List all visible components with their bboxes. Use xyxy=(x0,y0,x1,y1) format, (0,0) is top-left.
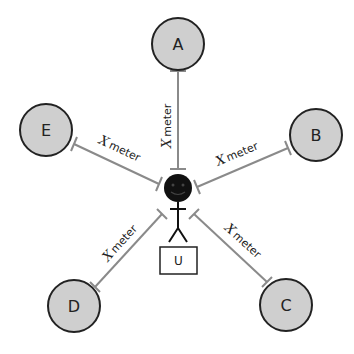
star-topology-diagram: Xmeter Xmeter Xmeter Xmeter Xmeter xyxy=(0,0,354,354)
edge-label-c: Xmeter xyxy=(221,219,265,261)
node-a-label: A xyxy=(173,35,184,54)
edge-label-b: Xmeter xyxy=(212,137,260,169)
edge-u-a: Xmeter xyxy=(159,70,186,170)
node-a: A xyxy=(152,18,204,70)
node-c: C xyxy=(260,279,312,331)
edge-label-e: Xmeter xyxy=(96,132,144,165)
edge-label-d: Xmeter xyxy=(98,221,140,265)
node-e-label: E xyxy=(41,121,51,140)
edge-u-c: Xmeter xyxy=(189,209,272,287)
edge-u-b: Xmeter xyxy=(194,137,291,194)
node-e: E xyxy=(20,104,72,156)
user-stick-figure-icon xyxy=(164,174,192,242)
edge-u-d: Xmeter xyxy=(90,209,167,292)
node-b: B xyxy=(290,109,342,161)
user-label-box: U xyxy=(160,247,197,274)
node-b-label: B xyxy=(311,126,322,145)
node-d-label: D xyxy=(68,297,80,316)
node-c-label: C xyxy=(280,296,291,315)
node-d: D xyxy=(48,280,100,332)
edge-label-a: Xmeter xyxy=(159,103,174,149)
edge-u-e: Xmeter xyxy=(71,132,162,191)
user-label: U xyxy=(174,254,183,268)
